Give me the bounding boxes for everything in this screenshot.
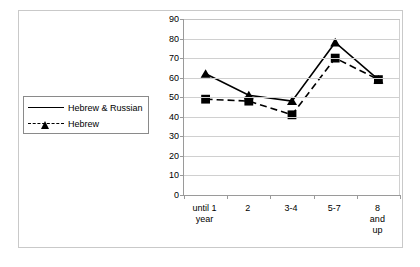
legend-line-dashed [28, 123, 64, 124]
plot-area [183, 19, 400, 196]
gridline-70 [184, 58, 400, 59]
y-tick-label-80: 80 [169, 34, 179, 44]
legend-key-hebrew [28, 117, 64, 131]
chart-legend: Hebrew & Russian Hebrew [23, 96, 149, 134]
x-tick-2 [270, 195, 271, 199]
x-tick-label-2: 3-4 [284, 203, 297, 214]
x-tick-label-3: 5-7 [328, 203, 341, 214]
data-point-0-0 [201, 69, 211, 78]
gridline-60 [184, 78, 400, 79]
legend-item-hebrew: Hebrew [24, 116, 148, 132]
y-tick-10 [180, 175, 184, 176]
x-tick-label-4: 8 and up [367, 203, 389, 236]
gridline-80 [184, 39, 400, 40]
x-tick-4 [357, 195, 358, 199]
y-tick-50 [180, 97, 184, 98]
series-line-0 [206, 42, 379, 101]
data-point-1-2 [288, 110, 297, 119]
y-tick-label-70: 70 [169, 53, 179, 63]
y-axis-tick-labels: 0102030405060708090 [159, 19, 179, 195]
plot-wrapper: 0102030405060708090 until 1 year23-45-78… [159, 19, 399, 241]
series-layer [184, 19, 400, 195]
data-point-1-4 [374, 75, 383, 84]
y-tick-40 [180, 117, 184, 118]
y-tick-20 [180, 156, 184, 157]
legend-label-hebrew: Hebrew [64, 118, 99, 130]
y-tick-70 [180, 58, 184, 59]
x-tick-label-1: 2 [245, 203, 250, 214]
legend-label-hebrew-and-russian: Hebrew & Russian [64, 102, 143, 114]
gridline-40 [184, 117, 400, 118]
x-tick-1 [227, 195, 228, 199]
gridline-50 [184, 97, 400, 98]
x-tick-0 [184, 195, 185, 199]
y-tick-label-10: 10 [169, 170, 179, 180]
y-tick-label-60: 60 [169, 73, 179, 83]
x-tick-label-0: until 1 year [193, 203, 217, 225]
gridline-10 [184, 175, 400, 176]
y-tick-30 [180, 136, 184, 137]
y-tick-label-90: 90 [169, 14, 179, 24]
x-axis-tick-labels: until 1 year23-45-78 and up [183, 203, 399, 237]
y-tick-80 [180, 39, 184, 40]
gridline-30 [184, 136, 400, 137]
legend-key-hebrew-and-russian [28, 101, 64, 115]
y-tick-label-0: 0 [174, 190, 179, 200]
y-tick-label-50: 50 [169, 92, 179, 102]
x-tick-3 [314, 195, 315, 199]
x-tick-5 [400, 195, 401, 199]
y-tick-label-40: 40 [169, 112, 179, 122]
gridline-90 [184, 19, 400, 20]
chart-frame: Hebrew & Russian Hebrew 0102030405060708… [18, 10, 403, 248]
y-tick-90 [180, 19, 184, 20]
gridline-20 [184, 156, 400, 157]
data-point-1-0 [201, 95, 210, 104]
y-tick-60 [180, 78, 184, 79]
y-tick-label-30: 30 [169, 131, 179, 141]
legend-item-hebrew-and-russian: Hebrew & Russian [24, 100, 148, 116]
y-tick-label-20: 20 [169, 151, 179, 161]
